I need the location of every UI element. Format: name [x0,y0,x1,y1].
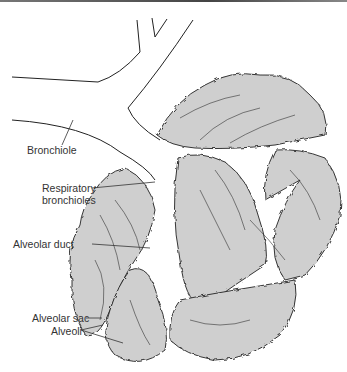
label-bronchiole: Bronchiole [27,144,77,156]
label-respiratory-bronchioles-line2: bronchioles [42,194,96,206]
label-alveolar-sac: Alveolar sac [32,312,89,324]
alveolar-tissue [70,74,341,362]
label-respiratory-bronchioles-line1: Respiratory [42,182,96,194]
label-alveoli: Alveoli [51,325,82,337]
diagram-canvas: Bronchiole Respiratory bronchioles Alveo… [0,0,347,372]
label-alveolar-duct: Alveolar duct [13,238,74,250]
